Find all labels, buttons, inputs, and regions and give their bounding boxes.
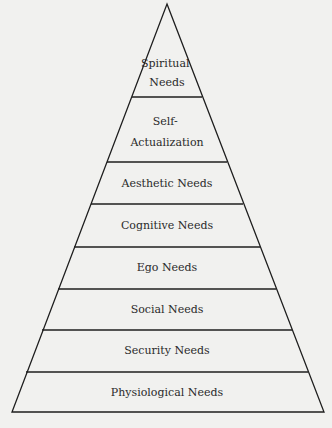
level-cognitive-needs: Cognitive Needs — [121, 219, 214, 232]
level-physiological-needs: Physiological Needs — [111, 386, 224, 399]
level-aesthetic-needs: Aesthetic Needs — [120, 177, 212, 190]
level-social-needs: Social Needs — [131, 303, 204, 316]
level-security-needs: Security Needs — [124, 344, 210, 357]
pyramid-diagram: Spiritual Needs Self- Actualization Aest… — [0, 0, 332, 428]
level-ego-needs: Ego Needs — [137, 261, 198, 274]
